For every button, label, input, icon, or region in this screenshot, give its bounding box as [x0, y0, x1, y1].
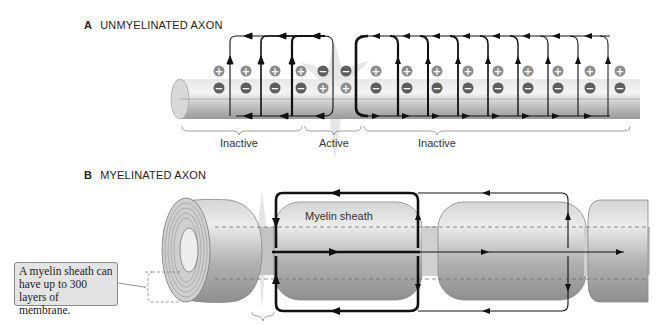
- svg-text:−: −: [524, 83, 532, 94]
- region-label-inactive-left: Inactive: [220, 137, 258, 149]
- svg-text:+: +: [464, 66, 472, 77]
- myelin-sheath-label: Myelin sheath: [305, 210, 373, 222]
- svg-text:−: −: [297, 83, 305, 94]
- region-brackets: [182, 126, 630, 135]
- svg-text:−: −: [554, 83, 562, 94]
- node-bracket: [252, 312, 274, 321]
- svg-text:−: −: [271, 83, 279, 94]
- svg-text:+: +: [297, 66, 305, 77]
- svg-text:+: +: [524, 66, 532, 77]
- svg-text:−: −: [403, 83, 411, 94]
- unmyelinated-axon: ++++−−+++++++++−−−−++−−−−−−−−− Inactive …: [171, 33, 640, 160]
- svg-text:+: +: [271, 66, 279, 77]
- myelin-callout: A myelin sheath can have up to 300 layer…: [14, 262, 118, 306]
- svg-text:−: −: [433, 83, 441, 94]
- region-label-active: Active: [319, 137, 349, 149]
- svg-text:−: −: [372, 83, 380, 94]
- svg-text:+: +: [215, 66, 223, 77]
- svg-text:−: −: [464, 83, 472, 94]
- svg-text:+: +: [433, 66, 441, 77]
- svg-text:+: +: [494, 66, 502, 77]
- region-label-inactive-right: Inactive: [418, 137, 456, 149]
- svg-text:+: +: [586, 66, 594, 77]
- svg-text:+: +: [342, 83, 350, 94]
- svg-text:+: +: [242, 66, 250, 77]
- svg-text:+: +: [319, 83, 327, 94]
- myelin-sheath-segment: [438, 202, 586, 300]
- svg-text:−: −: [242, 83, 250, 94]
- svg-text:−: −: [494, 83, 502, 94]
- svg-text:+: +: [403, 66, 411, 77]
- svg-text:+: +: [616, 66, 624, 77]
- svg-text:−: −: [586, 83, 594, 94]
- svg-text:−: −: [319, 66, 327, 77]
- svg-text:−: −: [616, 83, 624, 94]
- myelinated-axon: Myelin sheath: [118, 189, 650, 321]
- svg-text:+: +: [372, 66, 380, 77]
- svg-text:+: +: [554, 66, 562, 77]
- svg-text:−: −: [342, 66, 350, 77]
- svg-text:−: −: [215, 83, 223, 94]
